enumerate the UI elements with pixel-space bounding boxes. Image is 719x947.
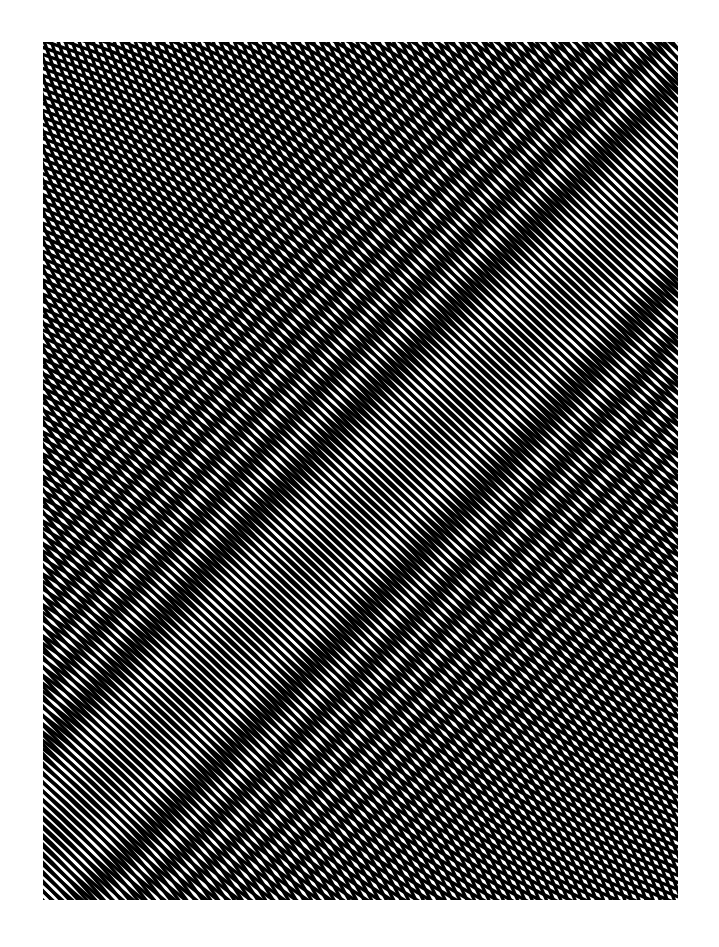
moire-artwork xyxy=(43,42,678,900)
circle-family-b xyxy=(43,42,678,900)
